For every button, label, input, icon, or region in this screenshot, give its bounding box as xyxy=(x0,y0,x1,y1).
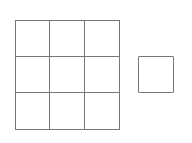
grid-cell-r1-c1 xyxy=(16,21,50,57)
grid-cell-r3-c3 xyxy=(85,93,119,129)
grid-cell-r2-c2 xyxy=(50,57,84,93)
grid-cell-r3-c1 xyxy=(16,93,50,129)
grid-cell-r3-c2 xyxy=(50,93,84,129)
grid-cell-r1-c3 xyxy=(85,21,119,57)
single-square xyxy=(138,56,174,93)
three-by-three-grid xyxy=(15,20,120,130)
grid-cell-r2-c1 xyxy=(16,57,50,93)
grid-cell-r1-c2 xyxy=(50,21,84,57)
grid-cell-r2-c3 xyxy=(85,57,119,93)
